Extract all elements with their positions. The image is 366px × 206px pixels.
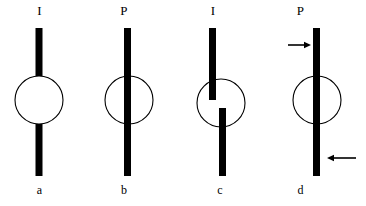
panel-a-circle [15,76,63,124]
panel-b: P b [79,0,175,206]
panel-d: P d [267,0,366,206]
panel-c: I c [175,0,267,206]
panel-a-lower-bar [36,124,43,176]
lower-force-arrow-icon [327,155,356,161]
panel-a-upper-bar [36,28,43,76]
figure-canvas: I a P b I c [0,0,366,206]
panel-a-graphic [0,0,79,206]
panel-d-bottom-label: d [251,183,350,197]
panel-b-bottom-label: b [76,183,172,197]
upper-force-arrow-icon [288,42,311,48]
panel-a-bottom-label: a [0,183,79,197]
panel-b-through-bar [124,28,131,176]
panel-c-graphic [175,0,267,206]
panel-d-through-bar [313,28,320,176]
panel-c-lower-bar [219,108,226,176]
panel-b-graphic [79,0,175,206]
panel-c-upper-bar [209,28,216,100]
panel-a: I a [0,0,79,206]
panel-d-graphic [267,0,366,206]
